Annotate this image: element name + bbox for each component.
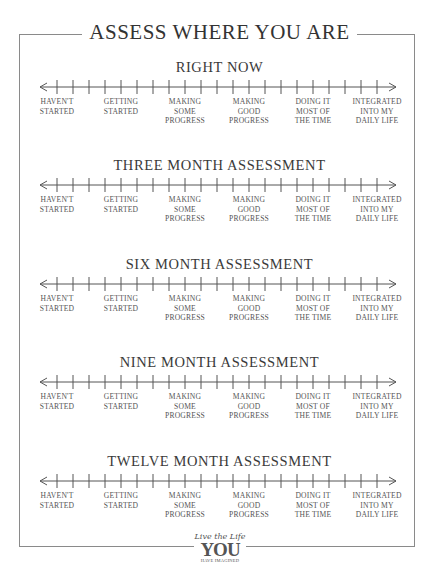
scale-label-line: STARTED [88,501,154,511]
scale-label-line: SOME [152,402,218,412]
scale-label: MAKINGSOMEPROGRESS [152,294,218,323]
scale-label-line: STARTED [24,501,90,511]
scale-label-line: THE TIME [280,116,346,126]
scale-label-line: MOST OF [280,205,346,215]
scale-label-line: INTO MY [344,402,410,412]
scale-label-line: STARTED [24,402,90,412]
scale-label-line: GOOD [216,107,282,117]
scale-label-line: THE TIME [280,313,346,323]
scale-label-line: GOOD [216,402,282,412]
scale-label-line: SOME [152,107,218,117]
scale-label-line: DOING IT [280,97,346,107]
scale-label-line: INTEGRATED [344,195,410,205]
progress-scale[interactable] [0,175,439,195]
scale-label-line: DAILY LIFE [344,510,410,520]
scale-label-line: MAKING [216,392,282,402]
scale-label-line: MOST OF [280,304,346,314]
scale-label: INTEGRATEDINTO MYDAILY LIFE [344,195,410,224]
scale-label-line: MOST OF [280,107,346,117]
scale-label-line: DAILY LIFE [344,116,410,126]
scale-label-line: HAVEN'T [24,392,90,402]
scale-label-line: PROGRESS [216,313,282,323]
scale-label-line: DOING IT [280,294,346,304]
scale-label-line: INTEGRATED [344,97,410,107]
scale-label-line: THE TIME [280,214,346,224]
scale-label-line: MAKING [216,294,282,304]
scale-label: HAVEN'TSTARTED [24,294,90,313]
scale-label: HAVEN'TSTARTED [24,392,90,411]
scale-label-line: MAKING [216,97,282,107]
scale-label: MAKINGSOMEPROGRESS [152,392,218,421]
scale-label-line: GOOD [216,501,282,511]
scale-label-line: MAKING [216,491,282,501]
scale-label: GETTINGSTARTED [88,294,154,313]
scale-label-line: INTO MY [344,107,410,117]
scale-label-line: GETTING [88,294,154,304]
scale-label-line: INTEGRATED [344,392,410,402]
scale-label-line: PROGRESS [152,116,218,126]
scale-label-line: PROGRESS [152,214,218,224]
logo: Live the Life YOU HAVE IMAGINED [194,532,246,570]
scale-label: MAKINGGOODPROGRESS [216,195,282,224]
scale-label: DOING ITMOST OFTHE TIME [280,294,346,323]
scale-label: INTEGRATEDINTO MYDAILY LIFE [344,392,410,421]
scale-label: MAKINGGOODPROGRESS [216,97,282,126]
scale-label-line: DAILY LIFE [344,214,410,224]
page-title: ASSESS WHERE YOU ARE [82,20,356,44]
scale-label-line: STARTED [88,402,154,412]
scale-label-line: MAKING [152,97,218,107]
scale-label-line: PROGRESS [216,116,282,126]
scale-label-line: PROGRESS [216,510,282,520]
scale-label: MAKINGGOODPROGRESS [216,491,282,520]
scale-label: HAVEN'TSTARTED [24,195,90,214]
scale-label-line: DOING IT [280,491,346,501]
scale-label-line: GOOD [216,304,282,314]
scale-label-line: GETTING [88,491,154,501]
scale-label: INTEGRATEDINTO MYDAILY LIFE [344,491,410,520]
scale-label-line: DAILY LIFE [344,411,410,421]
scale-label: MAKINGSOMEPROGRESS [152,195,218,224]
progress-scale[interactable] [0,274,439,294]
scale-label-line: STARTED [24,107,90,117]
scale-label-line: DOING IT [280,392,346,402]
scale-label-line: INTO MY [344,501,410,511]
scale-label-line: MOST OF [280,501,346,511]
scale-label-line: GETTING [88,97,154,107]
logo-line3: HAVE IMAGINED [194,558,246,564]
scale-label-line: SOME [152,501,218,511]
scale-label: HAVEN'TSTARTED [24,491,90,510]
scale-label-line: INTO MY [344,205,410,215]
scale-label-line: INTEGRATED [344,294,410,304]
scale-label: INTEGRATEDINTO MYDAILY LIFE [344,294,410,323]
progress-scale[interactable] [0,372,439,392]
scale-label-line: INTEGRATED [344,491,410,501]
scale-label: GETTINGSTARTED [88,491,154,510]
scale-label-line: THE TIME [280,411,346,421]
scale-label: MAKINGGOODPROGRESS [216,294,282,323]
scale-label-line: HAVEN'T [24,97,90,107]
progress-scale[interactable] [0,77,439,97]
scale-label: DOING ITMOST OFTHE TIME [280,491,346,520]
scale-label-line: THE TIME [280,510,346,520]
scale-label: DOING ITMOST OFTHE TIME [280,392,346,421]
section-heading: TWELVE MONTH ASSESSMENT [0,453,439,470]
scale-label-line: GETTING [88,392,154,402]
scale-label-line: STARTED [88,205,154,215]
scale-label-line: DAILY LIFE [344,313,410,323]
scale-label-line: PROGRESS [216,214,282,224]
scale-label-line: SOME [152,205,218,215]
scale-label-line: STARTED [88,304,154,314]
scale-label-line: PROGRESS [216,411,282,421]
scale-label-line: HAVEN'T [24,294,90,304]
page-title-wrap: ASSESS WHERE YOU ARE [0,20,439,45]
scale-label-line: MAKING [152,491,218,501]
scale-label: GETTINGSTARTED [88,392,154,411]
section-heading: NINE MONTH ASSESSMENT [0,354,439,371]
logo-line2: YOU [194,541,246,558]
progress-scale[interactable] [0,471,439,491]
scale-label: GETTINGSTARTED [88,97,154,116]
section-heading: RIGHT NOW [0,59,439,76]
scale-label-line: MAKING [216,195,282,205]
scale-label-line: STARTED [24,304,90,314]
scale-label: MAKINGSOMEPROGRESS [152,491,218,520]
